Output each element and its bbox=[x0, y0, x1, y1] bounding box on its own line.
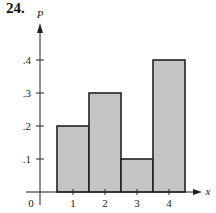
x-tick-label-1: 1 bbox=[70, 197, 76, 209]
bar-3 bbox=[121, 159, 153, 192]
bars-group bbox=[57, 60, 185, 192]
bar-1 bbox=[57, 126, 89, 192]
x-axis-label: x bbox=[205, 185, 211, 197]
x-axis-arrow-icon bbox=[193, 189, 202, 195]
origin-label: 0 bbox=[28, 197, 34, 209]
y-tick-label-.3: .3 bbox=[23, 87, 32, 99]
y-tick-label-.4: .4 bbox=[23, 54, 32, 66]
y-axis-label: P bbox=[36, 8, 44, 20]
bar-2 bbox=[89, 93, 121, 192]
bar-4 bbox=[153, 60, 185, 192]
y-tick-label-.2: .2 bbox=[23, 120, 31, 132]
x-tick-label-3: 3 bbox=[134, 197, 140, 209]
x-tick-label-2: 2 bbox=[102, 197, 108, 209]
x-tick-label-4: 4 bbox=[166, 197, 172, 209]
histogram-chart: 1234.1.2.3.40Px bbox=[0, 0, 216, 213]
y-tick-label-.1: .1 bbox=[23, 153, 31, 165]
y-axis-arrow-icon bbox=[37, 23, 43, 33]
